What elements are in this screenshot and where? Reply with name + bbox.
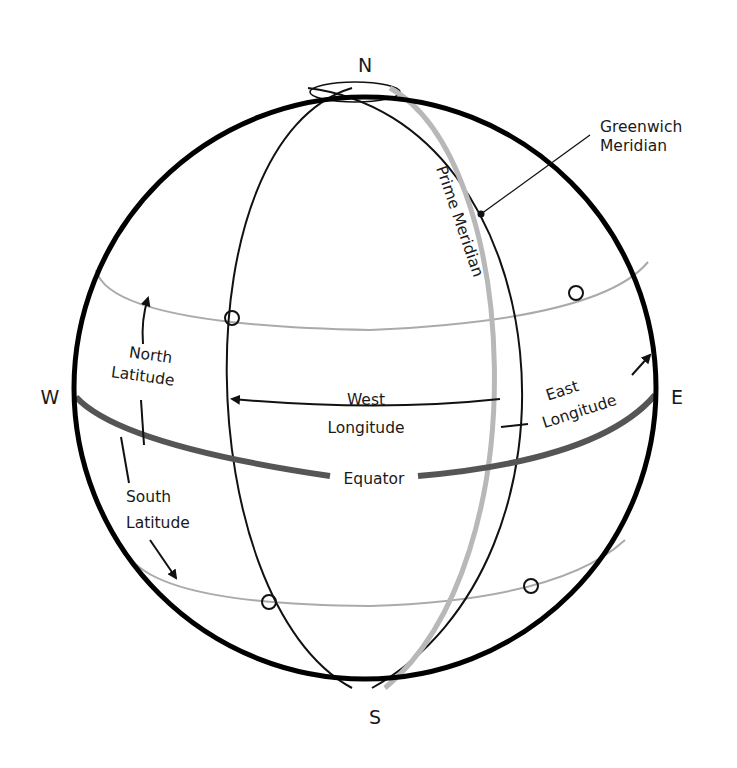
south-label: S	[369, 706, 381, 728]
north-latitude-arrow-tail	[141, 400, 144, 445]
east-longitude-arrow	[632, 355, 650, 375]
north-latitude-label-line1: North	[128, 343, 173, 367]
north-label: N	[358, 54, 372, 76]
intersection-marker	[569, 286, 583, 300]
greenwich-label-line1: Greenwich	[600, 118, 682, 136]
south-latitude-arrow-tail	[121, 437, 129, 483]
greenwich-leader-line	[481, 135, 590, 214]
greenwich-point	[478, 211, 485, 218]
equator-line-left	[76, 397, 330, 476]
west-longitude-label-line2: Longitude	[327, 419, 404, 437]
east-meridian	[308, 88, 522, 688]
north-latitude-label-line2: Latitude	[110, 363, 176, 390]
equator-line-right	[418, 395, 655, 476]
greenwich-label-line2: Meridian	[600, 137, 667, 155]
globe-diagram: N S W E Greenwich Meridian Prime Meridia…	[0, 0, 737, 768]
east-longitude-arrow-tail	[501, 424, 528, 427]
west-meridian	[227, 88, 352, 688]
south-latitude-arrow	[150, 540, 176, 578]
south-latitude-label-line1: South	[126, 488, 171, 506]
equator-label: Equator	[344, 470, 406, 488]
east-longitude-label-line1: East	[544, 377, 581, 404]
east-label: E	[671, 386, 683, 408]
south-latitude-label-line2: Latitude	[126, 514, 190, 532]
west-label: W	[41, 386, 60, 408]
north-latitude-line	[96, 262, 648, 330]
south-latitude-line	[128, 540, 625, 606]
west-longitude-label-line1: West	[347, 391, 385, 409]
